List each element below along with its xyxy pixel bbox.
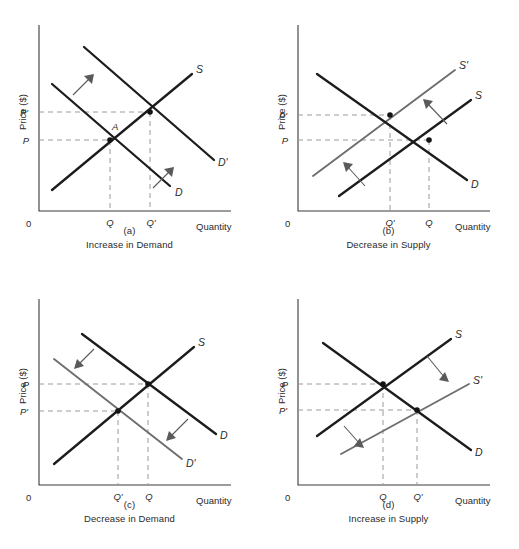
equilibrium-point-original [145,381,151,387]
curve-label-supply-shifted: S' [473,374,483,386]
panel-a-caption-id: (a) [0,224,259,237]
curve-label-demand: D [471,178,479,190]
panel-c: Price ($) Quantity 0 P P' Q' Q S D D' (c… [0,274,259,548]
curve-demand-shifted [84,47,214,160]
shift-arrow-upper [73,74,94,95]
curve-label-demand: D [220,429,228,441]
y-tick-upper: P [282,379,289,390]
curve-label-supply: S [198,336,205,348]
panel-d-caption-text: Increase in Supply [259,512,518,525]
y-tick-lower: P [282,135,289,146]
y-tick-lower: P' [20,406,29,417]
curve-label-supply: S [455,328,462,340]
y-tick-upper: P' [20,107,29,118]
panel-c-caption-text: Decrease in Demand [0,512,259,525]
equilibrium-point-new [387,112,393,118]
y-tick-lower: P' [279,405,288,416]
panel-b: Price ($) Quantity 0 P' P Q' Q S' S D (b… [259,0,518,274]
shift-arrow-upper [423,99,447,124]
y-tick-upper: P [23,379,30,390]
axis-lines [298,25,490,211]
supply-demand-figure: Price ($) Quantity 0 P' P Q Q' S D D' A … [0,0,519,549]
panel-a: Price ($) Quantity 0 P' P Q Q' S D D' A … [0,0,259,274]
panel-d-caption-id: (d) [259,498,518,511]
shift-arrow-lower [153,167,174,188]
shift-arrow-lower [343,162,365,186]
curve-label-demand-shifted: D' [186,457,197,469]
axis-lines [298,299,490,485]
curve-label-supply-shifted: S' [459,59,469,71]
curve-label-demand: D [475,446,483,458]
equilibrium-point-new [147,109,153,115]
y-tick-upper: P' [279,110,288,121]
equilibrium-point-original [380,381,386,387]
y-tick-lower: P [23,135,30,146]
panel-b-caption-id: (b) [259,224,518,237]
shift-arrow-upper [74,349,94,369]
panel-a-caption-text: Increase in Demand [0,238,259,251]
curve-label-demand-shifted: D' [218,156,229,168]
axis-lines [39,25,231,211]
equilibrium-point-new [115,408,121,414]
axis-lines [39,299,231,485]
panel-c-caption-id: (c) [0,498,259,511]
equilibrium-point-original [426,137,432,143]
curve-label-supply: S [475,89,482,101]
panel-d: Price ($) Quantity 0 P P' Q Q' S S' D (d… [259,274,518,548]
curve-label-supply: S [196,63,203,75]
shift-arrow-upper [427,356,449,382]
equilibrium-label-a: A [111,121,118,132]
shift-arrow-lower [166,419,188,441]
curve-demand [52,84,170,186]
equilibrium-point-new [414,407,420,413]
curve-demand [323,343,471,450]
equilibrium-point-a [107,137,113,143]
panel-b-caption-text: Decrease in Supply [259,238,518,251]
curve-supply [339,100,471,196]
curve-label-demand: D [175,186,183,198]
curve-demand [317,74,467,180]
shift-arrow-lower [344,426,364,448]
